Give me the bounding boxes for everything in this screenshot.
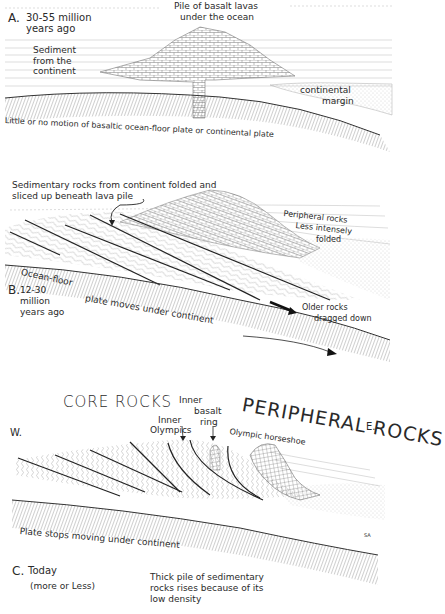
peripheral-label-line3: folded xyxy=(316,236,341,244)
thick-pile-label-line2: rocks rises because of its xyxy=(150,584,263,593)
panel-c-time: Today xyxy=(28,566,57,577)
panel-b-time-line3: years ago xyxy=(20,308,64,317)
thick-pile-label-line1: Thick pile of sedimentary xyxy=(150,573,264,582)
panel-a-time-line2: years ago xyxy=(26,24,75,35)
inner-basalt-label-line1: Inner xyxy=(179,396,202,405)
panel-a-time: 30-55 million xyxy=(26,13,92,24)
panel-c-time-line2: (more or Less) xyxy=(30,582,95,591)
margin-label-line2: margin xyxy=(322,97,354,106)
west-label: W. xyxy=(10,428,22,439)
panel-b-letter: B. xyxy=(8,284,20,297)
folded-label-line1: Sedimentary rocks from continent folded … xyxy=(12,181,216,190)
panel-b-time-line2: million xyxy=(20,297,50,306)
inner-olympics-label-line2: Olympics xyxy=(150,426,192,435)
inner-basalt-label-line3: ring xyxy=(200,418,218,427)
lava-pile-label-line2: under the ocean xyxy=(180,13,254,22)
panel-c-letter: C. xyxy=(12,565,24,578)
sediment-label-line3: continent xyxy=(33,67,76,76)
thick-pile-label-line3: low density xyxy=(150,595,201,604)
panel-b-time: 12-30 xyxy=(20,286,46,295)
older-rocks-label-line1: Older rocks xyxy=(302,304,348,312)
panel-a-letter: A. xyxy=(8,12,20,25)
sediment-label-line1: Sediment xyxy=(33,46,76,55)
inner-basalt-label-line2: basalt xyxy=(194,407,221,416)
panel-c-drawing xyxy=(12,426,385,585)
east-label: E. xyxy=(366,422,376,433)
lava-pile-label-line1: Pile of basalt lavas xyxy=(174,2,258,11)
folded-label-line2: sliced up beneath lava pile xyxy=(12,192,133,201)
core-rocks-heading: CORE ROCKS xyxy=(63,395,172,411)
artist-signature: SA xyxy=(364,533,371,538)
older-rocks-label-line2: dragged down xyxy=(314,315,372,323)
margin-label-line1: continental xyxy=(300,86,351,95)
